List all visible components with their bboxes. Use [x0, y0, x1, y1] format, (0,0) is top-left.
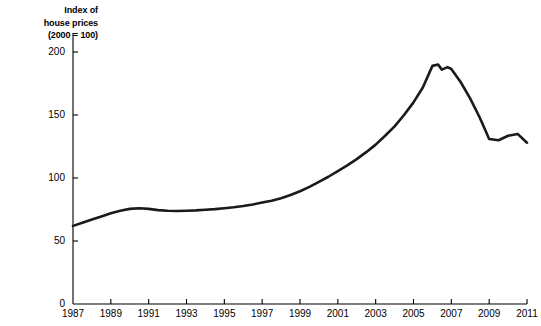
y-axis: 050100150200 — [48, 33, 78, 309]
data-series-group — [73, 65, 527, 226]
x-tick-label: 1995 — [213, 308, 236, 319]
chart-page: Index of house prices (2000 = 100) 05010… — [0, 0, 541, 326]
x-tick-label: 1997 — [251, 308, 274, 319]
series-line-house-prices — [73, 65, 527, 226]
x-tick-label: 1991 — [138, 308, 161, 319]
x-tick-label: 2007 — [440, 308, 463, 319]
x-tick-label: 1999 — [289, 308, 312, 319]
y-tick-label: 50 — [54, 235, 66, 246]
x-tick-label: 1987 — [62, 308, 85, 319]
line-chart: 050100150200 198719891991199319951997199… — [0, 0, 541, 326]
y-tick-label: 200 — [48, 46, 65, 57]
x-tick-label: 2005 — [402, 308, 425, 319]
x-tick-label: 2009 — [478, 308, 501, 319]
x-tick-label: 2003 — [365, 308, 388, 319]
x-tick-label: 1989 — [100, 308, 123, 319]
x-tick-label: 2011 — [516, 308, 538, 319]
x-tick-label: 2001 — [327, 308, 350, 319]
y-tick-label: 100 — [48, 172, 65, 183]
y-tick-label: 150 — [48, 109, 65, 120]
x-axis: 1987198919911993199519971999200120032005… — [62, 299, 538, 319]
x-tick-label: 1993 — [175, 308, 198, 319]
